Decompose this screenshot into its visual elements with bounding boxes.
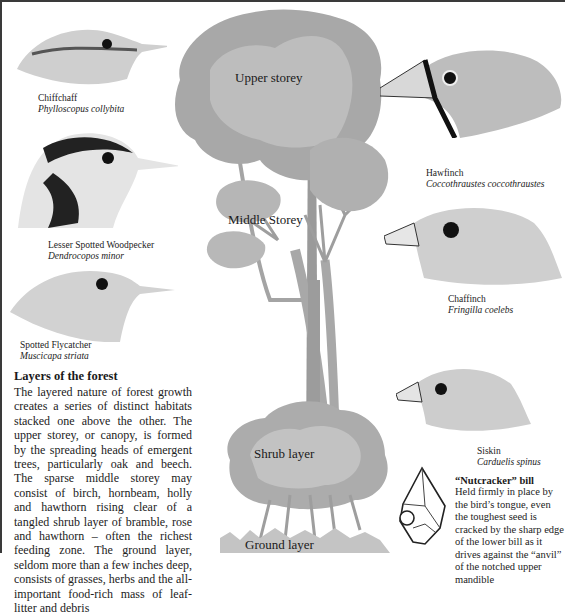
flycatcher-head-icon — [5, 262, 175, 342]
latin-name: Fringilla coelebs — [448, 305, 513, 316]
caption-hawfinch: Hawfinch Coccothraustes coccothraustes — [426, 168, 544, 190]
bird-illustration-hawfinch — [380, 38, 565, 138]
latin-name: Phylloscopus collybita — [38, 104, 124, 115]
bird-illustration-spotted-flycatcher — [5, 262, 175, 342]
common-name: Chaffinch — [448, 294, 513, 305]
latin-name: Muscicapa striata — [20, 351, 92, 362]
bird-illustration-chiffchaff — [12, 14, 167, 86]
note-body: Held firmly in place by the bird’s tongu… — [455, 486, 565, 586]
ground-layer-label: Ground layer — [245, 537, 314, 553]
caption-spotted-flycatcher: Spotted Flycatcher Muscicapa striata — [20, 340, 92, 362]
woodpecker-head-icon — [8, 128, 178, 233]
upper-storey-label: Upper storey — [235, 70, 303, 86]
article-body: The layered nature of forest growth crea… — [14, 385, 192, 616]
forest-layers-illustration: Upper storey Middle Storey Shrub layer G… — [160, 0, 400, 553]
note-title: “Nutcracker” bill — [455, 475, 565, 486]
common-name: Siskin — [477, 446, 541, 457]
bill-cross-section-icon — [395, 466, 450, 546]
caption-lesser-spotted-woodpecker: Lesser Spotted Woodpecker Dendrocopos mi… — [48, 240, 154, 262]
siskin-head-icon — [396, 364, 536, 434]
common-name: Spotted Flycatcher — [20, 340, 92, 351]
nutcracker-bill-note: “Nutcracker” bill Held firmly in place b… — [455, 475, 565, 586]
common-name: Lesser Spotted Woodpecker — [48, 240, 154, 251]
caption-siskin: Siskin Carduelis spinus — [477, 446, 541, 468]
article: Layers of the forest The layered nature … — [14, 369, 192, 616]
bird-illustration-siskin — [396, 364, 536, 434]
latin-name: Coccothraustes coccothraustes — [426, 179, 544, 190]
caption-chaffinch: Chaffinch Fringilla coelebs — [448, 294, 513, 316]
latin-name: Carduelis spinus — [477, 457, 541, 468]
chiffchaff-head-icon — [12, 14, 167, 86]
hawfinch-head-icon — [380, 38, 565, 138]
common-name: Hawfinch — [426, 168, 544, 179]
article-title: Layers of the forest — [14, 369, 192, 384]
latin-name: Dendrocopos minor — [48, 251, 154, 262]
caption-chiffchaff: Chiffchaff Phylloscopus collybita — [38, 93, 124, 115]
middle-storey-label: Middle Storey — [228, 212, 303, 228]
common-name: Chiffchaff — [38, 93, 124, 104]
nutcracker-bill-diagram — [395, 466, 450, 546]
bird-illustration-lesser-spotted-woodpecker — [8, 128, 178, 233]
bird-illustration-chaffinch — [384, 198, 562, 288]
chaffinch-head-icon — [384, 198, 562, 288]
shrub-layer-label: Shrub layer — [254, 446, 314, 462]
